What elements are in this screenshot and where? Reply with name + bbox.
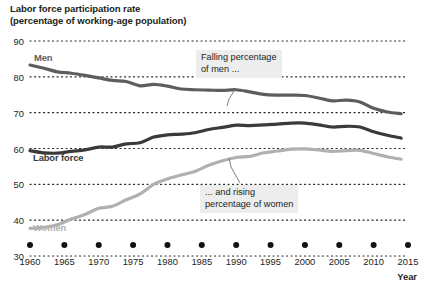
callout-men-line1: Falling percentage <box>201 52 277 64</box>
x-axis-tick-2015: 2015 <box>388 256 422 267</box>
callout-women-line1: ... and rising <box>205 187 293 199</box>
y-axis-tick-70: 70 <box>0 107 24 118</box>
leader-line-women <box>229 158 240 183</box>
y-axis-tick-60: 60 <box>0 143 24 154</box>
y-axis-tick-40: 40 <box>0 215 24 226</box>
chart-figure: Labor force participation rate (percenta… <box>0 0 422 293</box>
y-axis-tick-90: 90 <box>0 36 24 47</box>
series-label-women: Women <box>33 222 66 233</box>
callout-men: Falling percentage of men ... <box>196 50 282 78</box>
x-axis-tick-dots <box>27 242 411 248</box>
chart-canvas <box>0 0 422 293</box>
callout-women-line2: percentage of women <box>205 199 293 211</box>
callout-women: ... and rising percentage of women <box>200 185 298 213</box>
series-label-labor-force: Labor force <box>33 152 83 163</box>
y-axis-tick-80: 80 <box>0 71 24 82</box>
y-axis-tick-50: 50 <box>0 179 24 190</box>
callout-leader-lines <box>227 88 240 183</box>
x-axis-title: Year <box>397 271 417 282</box>
series-label-men: Men <box>34 52 52 63</box>
callout-men-line2: of men ... <box>201 64 277 76</box>
